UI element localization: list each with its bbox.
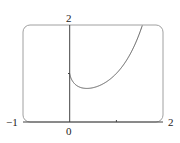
y-max-label: 2: [66, 13, 72, 24]
function-curve: [70, 26, 143, 89]
x-min-label: −1: [6, 117, 18, 128]
chart-canvas: [0, 0, 180, 143]
x-zero-label: 0: [66, 126, 72, 137]
plot-frame: [23, 25, 163, 122]
x-max-label: 2: [168, 117, 174, 128]
